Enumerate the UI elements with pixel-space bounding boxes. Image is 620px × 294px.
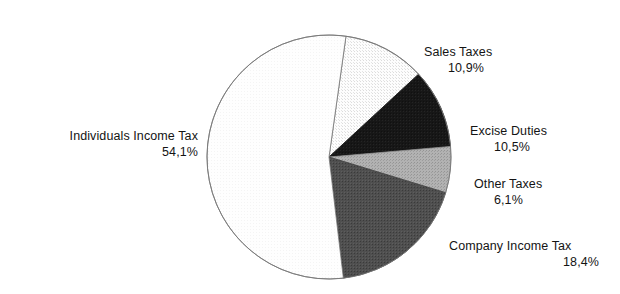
pie-slice <box>207 35 346 279</box>
pie-label-company-income-tax-value: 18,4% <box>449 254 609 270</box>
pie-label-company-income-tax: Company Income Tax 18,4% <box>449 238 609 270</box>
pie-label-other-taxes-value: 6,1% <box>474 192 594 208</box>
pie-label-sales-taxes: Sales Taxes 10,9% <box>424 44 584 76</box>
pie-label-excise-duties-name: Excise Duties <box>470 123 590 139</box>
pie-label-other-taxes-name: Other Taxes <box>474 176 594 192</box>
pie-label-individuals-income-tax: Individuals Income Tax 54,1% <box>18 128 198 160</box>
pie-label-individuals-income-tax-name: Individuals Income Tax <box>18 128 198 144</box>
pie-label-excise-duties: Excise Duties 10,5% <box>470 123 590 155</box>
pie-slice-group <box>207 35 451 279</box>
pie-label-other-taxes: Other Taxes 6,1% <box>474 176 594 208</box>
pie-label-excise-duties-value: 10,5% <box>470 139 590 155</box>
pie-chart-figure: Individuals Income Tax 54,1% Sales Taxes… <box>0 0 620 294</box>
pie-label-company-income-tax-name: Company Income Tax <box>449 238 609 254</box>
pie-label-individuals-income-tax-value: 54,1% <box>18 144 198 160</box>
pie-label-sales-taxes-value: 10,9% <box>424 60 584 76</box>
pie-label-sales-taxes-name: Sales Taxes <box>424 44 584 60</box>
